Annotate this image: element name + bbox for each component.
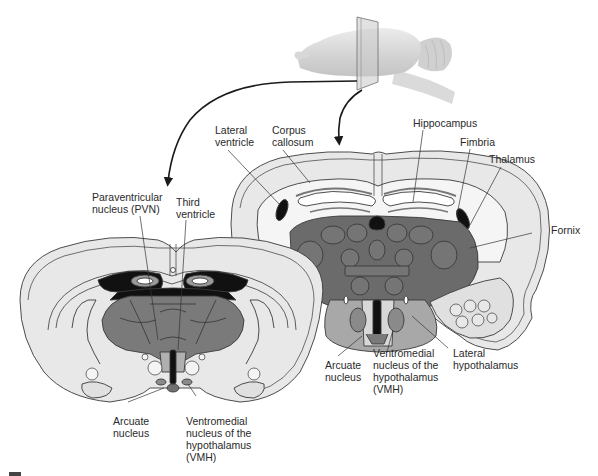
label-vmh-left: Ventromedial nucleus of the hypothalamus… bbox=[186, 415, 251, 463]
label-hippocampus: Hippocampus bbox=[413, 117, 477, 129]
label-third-ventricle: Third ventricle bbox=[176, 196, 215, 220]
figure-marker bbox=[9, 472, 21, 476]
label-arcuate-nucleus-right: Arcuate nucleus bbox=[325, 359, 361, 383]
arrow-to-right-section bbox=[339, 90, 362, 141]
label-corpus-callosum: Corpus callosum bbox=[272, 124, 313, 148]
label-lateral-hypothalamus: Lateral hypothalamus bbox=[453, 347, 518, 371]
label-thalamus: Thalamus bbox=[489, 153, 535, 165]
whole-brain-illustration bbox=[294, 17, 455, 104]
label-vmh-right: Ventromedial nucleus of the hypothalamus… bbox=[373, 347, 438, 395]
brain-diagram bbox=[0, 0, 598, 476]
label-pvn: Paraventricular nucleus (PVN) bbox=[92, 191, 163, 215]
section-plane bbox=[357, 17, 378, 90]
left-coronal-section bbox=[20, 237, 323, 402]
label-fimbria: Fimbria bbox=[460, 136, 495, 148]
label-arcuate-nucleus-left: Arcuate nucleus bbox=[113, 415, 149, 439]
label-lateral-ventricle: Lateral ventricle bbox=[215, 124, 254, 148]
label-fornix: Fornix bbox=[551, 224, 580, 236]
